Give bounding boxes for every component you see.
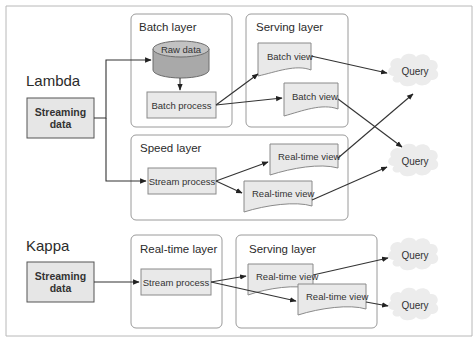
lambda-query-2: Query <box>388 144 438 176</box>
batch-view-1-label: Batch view <box>267 51 313 62</box>
batch-view-2-label: Batch view <box>292 91 338 102</box>
kappa-streaming-data-label-2: data <box>50 282 72 294</box>
lambda-serving-layer-title: Serving layer <box>256 21 323 33</box>
kappa-query-2-label: Query <box>401 300 428 311</box>
lambda-stream-process-label: Stream process <box>149 176 216 187</box>
speed-realtime-view-2-label: Real-time view <box>252 188 314 199</box>
kappa-stream-process-label: Stream process <box>143 277 210 288</box>
kappa-realtime-view-2-label: Real-time view <box>306 291 368 302</box>
lambda-query-1: Query <box>388 54 438 86</box>
raw-data-database: Raw data <box>153 41 209 78</box>
lambda-title: Lambda <box>26 72 81 89</box>
kappa-query-1: Query <box>388 238 438 270</box>
lambda-streaming-data: Streaming data <box>27 98 94 138</box>
speed-realtime-view-1-label: Real-time view <box>278 151 340 162</box>
batch-process-label: Batch process <box>151 100 211 111</box>
kappa-realtime-view-1-label: Real-time view <box>256 271 318 282</box>
realtime-layer-title: Real-time layer <box>140 243 217 255</box>
kappa-query-2: Query <box>388 288 438 320</box>
kappa-serving-layer-title: Serving layer <box>249 243 316 255</box>
architecture-diagram: Lambda Streaming data Batch layer Raw da… <box>0 0 473 343</box>
batch-layer-title: Batch layer <box>139 21 197 33</box>
kappa-streaming-data-label-1: Streaming <box>35 270 86 282</box>
batch-process-node: Batch process <box>147 92 216 118</box>
lambda-query-2-label: Query <box>401 156 428 167</box>
kappa-stream-process-node: Stream process <box>141 269 211 295</box>
kappa-streaming-data: Streaming data <box>27 262 94 302</box>
lambda-query-1-label: Query <box>401 66 428 77</box>
lambda-streaming-data-label-2: data <box>50 118 72 130</box>
kappa-query-1-label: Query <box>401 250 428 261</box>
kappa-title: Kappa <box>26 237 70 254</box>
lambda-streaming-data-label-1: Streaming <box>35 106 86 118</box>
speed-layer-title: Speed layer <box>140 142 202 154</box>
lambda-stream-process-node: Stream process <box>148 168 216 194</box>
raw-data-label: Raw data <box>161 44 202 55</box>
